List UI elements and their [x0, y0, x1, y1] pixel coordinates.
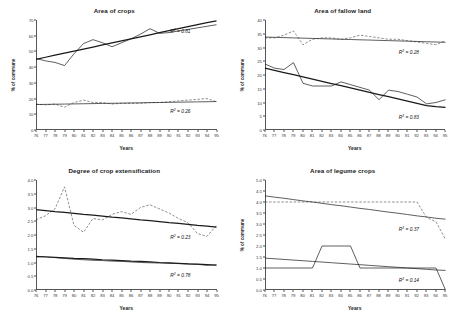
series-upper-trend: [36, 210, 217, 227]
x-tick-label: 91: [405, 133, 410, 138]
x-tick-mark: [416, 290, 417, 292]
x-tick-mark: [331, 290, 332, 292]
x-tick-mark: [178, 130, 179, 132]
series-lower-trend: [36, 256, 217, 265]
x-tick-mark: [36, 290, 37, 292]
x-tick-mark: [283, 290, 284, 292]
y-tick-label: 10: [257, 100, 262, 105]
x-tick-mark: [312, 130, 313, 132]
plot-area: 0510152025303540 76777879808182838485868…: [265, 20, 446, 130]
x-tick-mark: [159, 290, 160, 292]
x-tick-label: 91: [176, 133, 181, 138]
x-tick-mark: [131, 130, 132, 132]
r2-annotation: R2 = 0.78: [170, 272, 190, 279]
plot-area: 0.00.51.01.52.02.53.03.54.04.55.0 767778…: [265, 180, 446, 290]
y-tick-label: 2.5: [256, 233, 262, 238]
x-tick-mark: [112, 130, 113, 132]
x-tick-mark: [74, 290, 75, 292]
x-tick-label: 93: [424, 293, 429, 298]
y-tick-label: 5.0: [256, 178, 262, 183]
x-tick-label: 90: [395, 293, 400, 298]
x-tick-label: 78: [281, 293, 286, 298]
x-tick-mark: [150, 130, 151, 132]
x-tick-mark: [93, 130, 94, 132]
x-tick-label: 90: [167, 293, 172, 298]
x-tick-mark: [369, 290, 370, 292]
y-tick-label: 4.0: [256, 200, 262, 205]
x-tick-mark: [121, 290, 122, 292]
y-tick-label: 30: [29, 80, 34, 85]
y-tick-label: 2.0: [256, 244, 262, 249]
x-tick-label: 79: [291, 293, 296, 298]
x-tick-label: 88: [376, 133, 381, 138]
x-tick-mark: [445, 130, 446, 132]
x-axis-label: Years: [265, 145, 446, 151]
series-lower-trend: [265, 68, 446, 107]
x-tick-mark: [274, 130, 275, 132]
x-tick-label: 80: [300, 133, 305, 138]
x-tick-mark: [397, 130, 398, 132]
y-axis-label-host: % of commune: [14, 20, 24, 130]
y-tick-label: 1.0: [28, 260, 34, 265]
x-tick-label: 89: [157, 133, 162, 138]
x-tick-label: 81: [81, 133, 86, 138]
x-tick-mark: [445, 290, 446, 292]
y-tick-label: 2.5: [28, 219, 34, 224]
panel-area-of-legume-crops: Area of legume crops % of commune 0.00.5…: [229, 160, 457, 320]
x-tick-mark: [435, 130, 436, 132]
x-tick-mark: [112, 290, 113, 292]
x-tick-label: 77: [43, 133, 48, 138]
x-tick-label: 84: [338, 293, 343, 298]
x-tick-label: 83: [329, 133, 334, 138]
x-tick-mark: [178, 290, 179, 292]
y-tick-label: 1.5: [28, 246, 34, 251]
r2-annotation: R2 = 0.37: [399, 226, 419, 233]
x-tick-label: 86: [357, 293, 362, 298]
x-axis-label: Years: [265, 305, 446, 311]
x-tick-label: 88: [376, 293, 381, 298]
x-tick-mark: [216, 290, 217, 292]
y-tick-label: 40: [257, 18, 262, 23]
x-axis-label: Years: [36, 145, 217, 151]
x-tick-mark: [426, 290, 427, 292]
x-tick-mark: [293, 130, 294, 132]
x-tick-label: 87: [138, 133, 143, 138]
x-tick-label: 91: [176, 293, 181, 298]
x-tick-mark: [140, 130, 141, 132]
x-tick-mark: [340, 130, 341, 132]
x-tick-mark: [274, 290, 275, 292]
x-tick-label: 95: [214, 293, 219, 298]
x-tick-mark: [369, 130, 370, 132]
x-tick-label: 85: [348, 133, 353, 138]
y-axis-label-host: % of commune: [243, 20, 253, 130]
x-tick-label: 93: [424, 133, 429, 138]
x-tick-mark: [283, 130, 284, 132]
x-tick-label: 81: [310, 293, 315, 298]
x-tick-label: 79: [62, 133, 67, 138]
x-tick-label: 94: [205, 133, 210, 138]
x-tick-label: 83: [100, 293, 105, 298]
x-tick-label: 95: [214, 133, 219, 138]
x-tick-mark: [83, 290, 84, 292]
x-tick-mark: [140, 290, 141, 292]
series-lines: [265, 180, 446, 290]
x-tick-label: 95: [443, 133, 448, 138]
x-tick-mark: [406, 290, 407, 292]
x-tick-mark: [331, 130, 332, 132]
x-tick-label: 92: [186, 133, 191, 138]
r2-annotation: R2 = 0.83: [399, 114, 419, 121]
y-tick-label: 0.5: [256, 277, 262, 282]
x-tick-label: 76: [262, 133, 267, 138]
x-tick-label: 94: [433, 293, 438, 298]
series-lower-trend: [36, 102, 217, 105]
r2-annotation: R2 = 0.81: [170, 27, 190, 34]
y-tick-label: 10: [29, 112, 34, 117]
x-tick-label: 90: [395, 133, 400, 138]
x-tick-mark: [216, 130, 217, 132]
series-upper-observed: [36, 187, 217, 237]
x-tick-mark: [197, 290, 198, 292]
x-tick-label: 82: [319, 133, 324, 138]
x-tick-mark: [406, 130, 407, 132]
r2-annotation: R2 = 0.23: [170, 234, 190, 241]
y-axis-label-host: % of commune: [243, 180, 253, 290]
